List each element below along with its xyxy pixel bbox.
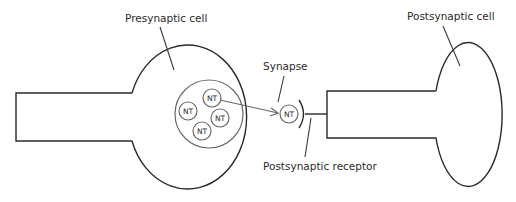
postsynaptic-receptor-pointer <box>305 118 311 157</box>
presynaptic-cell-label: Presynaptic cell <box>125 12 207 24</box>
presynaptic-cell-outline <box>16 45 247 189</box>
synapse-pointer <box>278 76 284 102</box>
nt-molecule: NT <box>203 89 221 107</box>
svg-text:NT: NT <box>284 110 295 119</box>
svg-text:NT: NT <box>197 127 208 136</box>
presynaptic-cell-pointer <box>160 27 174 70</box>
svg-text:NT: NT <box>207 94 218 103</box>
postsynaptic-receptor-label: Postsynaptic receptor <box>263 160 378 172</box>
nt-molecule: NT <box>179 102 197 120</box>
nt-molecule: NT <box>211 109 229 127</box>
release-arrow <box>220 100 278 116</box>
synapse-diagram: Presynaptic cell NT NT NT NT NT Synapse … <box>0 0 516 202</box>
postsynaptic-cell-label: Postsynaptic cell <box>407 10 495 22</box>
svg-text:NT: NT <box>215 114 226 123</box>
released-nt-molecule: NT <box>280 105 298 123</box>
synapse-label: Synapse <box>263 60 308 72</box>
postsynaptic-receptor-cup <box>299 100 304 128</box>
nt-molecule: NT <box>193 122 211 140</box>
svg-text:NT: NT <box>183 107 194 116</box>
